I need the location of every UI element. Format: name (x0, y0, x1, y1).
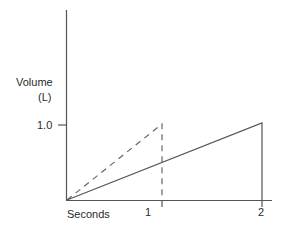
dashed-series-line (67, 124, 162, 200)
y-axis-label-line2: (L) (38, 91, 51, 103)
x-tick-label-1: 1 (145, 206, 151, 218)
x-tick-label-2: 2 (258, 206, 264, 218)
x-axis-label: Seconds (67, 208, 110, 220)
y-tick-label: 1.0 (37, 119, 52, 131)
y-axis-label-line1: Volume (16, 76, 53, 88)
chart-canvas (0, 0, 285, 232)
solid-series-line (67, 123, 262, 200)
volume-time-chart: Volume (L) 1.0 Seconds 1 2 (0, 0, 285, 232)
